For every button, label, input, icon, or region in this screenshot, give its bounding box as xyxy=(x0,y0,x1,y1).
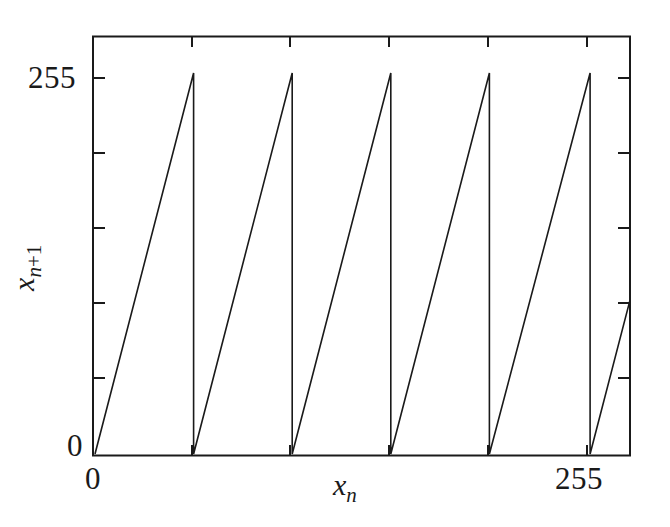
y-axis-title-wrapper: xn+1 xyxy=(18,210,78,320)
x-axis-title-subscript: n xyxy=(346,483,357,507)
x-axis-title: xn xyxy=(333,470,357,506)
x-axis-ticks-top xyxy=(192,37,587,48)
y-axis-title: xn+1 xyxy=(9,245,45,291)
y-axis-title-subscript: n+1 xyxy=(22,245,46,278)
y-axis-title-base: x xyxy=(7,278,40,291)
y-axis-title-subscript-n: n xyxy=(22,267,46,278)
x-axis-title-base: x xyxy=(333,468,346,501)
y-axis-title-subscript-plus-one: +1 xyxy=(22,245,46,267)
y-axis-ticks xyxy=(93,78,105,378)
plot-frame xyxy=(93,37,630,456)
sawtooth-return-map-plot xyxy=(0,0,670,527)
x-axis-tick-label-max: 255 xyxy=(555,463,603,494)
y-axis-ticks-right xyxy=(618,78,630,378)
y-axis-tick-label-max: 255 xyxy=(28,62,76,93)
sawtooth-data-curve xyxy=(95,73,630,454)
figure-container: 255 0 0 255 xn+1 xn xyxy=(0,0,670,527)
x-axis-tick-label-min: 0 xyxy=(85,463,101,494)
x-axis-ticks-bottom xyxy=(192,445,587,456)
y-axis-tick-label-min: 0 xyxy=(67,430,83,461)
